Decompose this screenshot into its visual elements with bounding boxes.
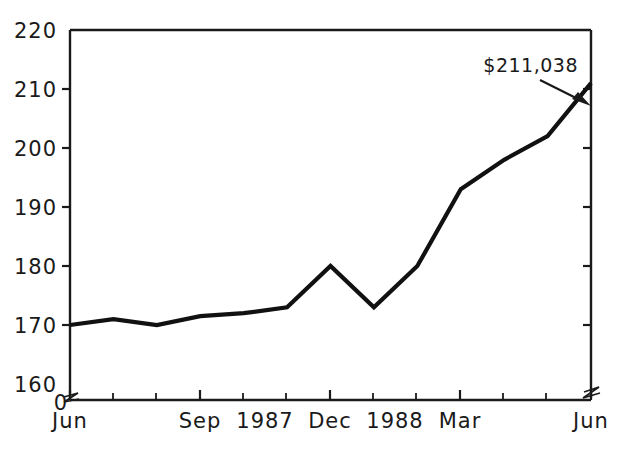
y-label-170: 170: [14, 314, 57, 338]
x-label-jun-1987: Jun: [50, 409, 88, 433]
x-label-jun-1988: Jun: [571, 409, 609, 433]
y-label-160: 160: [14, 373, 57, 397]
y-label-210: 210: [14, 78, 57, 102]
y-label-180: 180: [14, 255, 57, 279]
x-label-dec-1987: Dec: [308, 409, 352, 433]
y-label-220: 220: [14, 19, 57, 43]
x-label-mar-1988: Mar: [439, 409, 482, 433]
annotation-label: $211,038: [483, 54, 578, 76]
y-label-200: 200: [14, 137, 57, 161]
chart-canvas: 220 210 200 190 180 170 160 0: [0, 0, 634, 457]
line-chart: 220 210 200 190 180 170 160 0: [0, 0, 634, 457]
x-label-sep-1987: Sep: [179, 409, 222, 433]
y-label-190: 190: [14, 196, 57, 220]
x-label-year-1987: 1987: [236, 409, 293, 433]
x-label-year-1988: 1988: [366, 409, 423, 433]
